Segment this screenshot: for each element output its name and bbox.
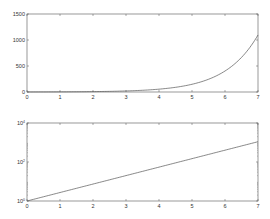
axes-frame (27, 123, 258, 201)
x-tick-label: 0 (25, 203, 28, 209)
figure: 01234567050010001500 01234567100102104 (0, 0, 270, 219)
y-tick-label: 100 (17, 198, 25, 205)
x-tick-label: 4 (157, 203, 160, 209)
y-tick-label: 1000 (13, 37, 25, 43)
axes-frame (27, 14, 258, 92)
y-tick-label: 0 (22, 89, 25, 95)
y-tick-label: 1500 (13, 11, 25, 17)
series-line-exp (27, 142, 258, 201)
x-tick-label: 5 (190, 94, 193, 100)
x-tick-label: 7 (256, 94, 259, 100)
y-tick-label: 500 (16, 63, 25, 69)
x-tick-label: 1 (58, 94, 61, 100)
x-tick-label: 3 (124, 203, 127, 209)
series-line-exp (27, 35, 258, 92)
x-tick-label: 3 (124, 94, 127, 100)
top-axes-linear: 01234567050010001500 (13, 11, 260, 100)
x-tick-label: 5 (190, 203, 193, 209)
x-tick-label: 2 (91, 94, 94, 100)
y-tick-label: 104 (17, 120, 25, 127)
y-tick-label: 102 (17, 159, 25, 166)
x-tick-label: 7 (256, 203, 259, 209)
bottom-axes-log: 01234567100102104 (17, 120, 260, 210)
x-tick-label: 0 (25, 94, 28, 100)
x-tick-label: 6 (223, 203, 226, 209)
x-tick-label: 1 (58, 203, 61, 209)
x-tick-label: 6 (223, 94, 226, 100)
x-tick-label: 4 (157, 94, 160, 100)
x-tick-label: 2 (91, 203, 94, 209)
